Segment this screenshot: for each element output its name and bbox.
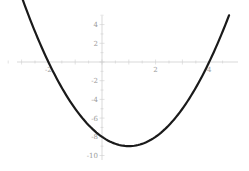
y-tick-label: -6 — [91, 115, 98, 123]
tick-labels: -22442-2-4-6-8-10 — [45, 21, 212, 160]
y-tick-label: -4 — [91, 96, 98, 104]
y-tick-label: -8 — [91, 133, 98, 141]
axes — [8, 15, 238, 160]
parabola-curve — [2, 0, 229, 146]
y-tick-label: 4 — [94, 21, 99, 29]
y-tick-label: 2 — [94, 40, 98, 48]
y-tick-label: -2 — [91, 77, 98, 85]
y-tick-label: -10 — [87, 152, 98, 160]
parabola-plot: -22442-2-4-6-8-10 — [0, 0, 249, 171]
x-tick-label: 2 — [153, 66, 157, 74]
